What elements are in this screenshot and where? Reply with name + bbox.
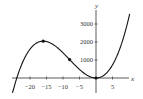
y-tick-label: 3000 — [80, 20, 93, 27]
marked-point — [68, 58, 71, 61]
x-tick-label: −10 — [58, 83, 68, 90]
marked-point — [42, 40, 45, 43]
x-axis: −20−15−10−55 x — [12, 75, 135, 91]
x-tick-label: −20 — [25, 83, 35, 90]
x-tick-label: 5 — [111, 83, 114, 90]
x-tick-label: −5 — [76, 83, 83, 90]
function-curve — [13, 14, 130, 93]
function-graph: −20−15−10−55 x 100020003000 y — [0, 0, 143, 99]
y-tick-label: 1000 — [80, 56, 93, 63]
y-tick-label: 2000 — [80, 38, 93, 45]
x-tick-label: −15 — [41, 83, 51, 90]
marked-point — [94, 76, 97, 79]
y-axis-label: y — [94, 2, 99, 10]
x-axis-label: x — [130, 75, 135, 83]
